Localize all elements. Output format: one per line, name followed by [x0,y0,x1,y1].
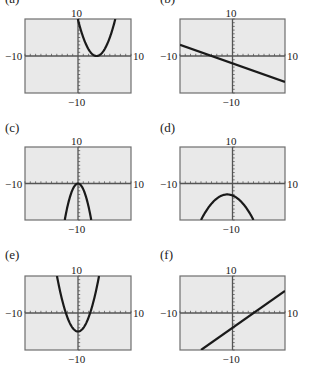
panel-label-c: (c) [5,121,19,135]
xmin-label-f: −10 [160,307,177,319]
ymax-label-a: 10 [71,7,82,19]
ymin-label-b: −10 [223,96,240,108]
panel-label-f: (f) [160,248,173,262]
xmax-label-b: 10 [287,50,298,62]
ymin-label-e: −10 [68,353,85,365]
ymin-label-c: −10 [68,223,85,235]
panel-label-a: (a) [5,0,19,6]
graph-d [180,147,285,220]
xmax-label-a: 10 [133,50,144,62]
ymax-label-e: 10 [71,264,82,276]
xmin-label-a: −10 [5,50,22,62]
ymin-label-f: −10 [223,353,240,365]
xmax-label-f: 10 [287,307,298,319]
graph-f [180,276,285,350]
panel-label-d: (d) [160,121,175,135]
xmax-label-e: 10 [133,307,144,319]
xmax-label-d: 10 [287,178,298,190]
xmin-label-e: −10 [5,307,22,319]
ymax-label-d: 10 [226,135,237,147]
panel-label-e: (e) [5,248,19,262]
ymin-label-d: −10 [223,223,240,235]
xmin-label-b: −10 [160,50,177,62]
xmin-label-c: −10 [5,178,22,190]
ymin-label-a: −10 [68,96,85,108]
ymax-label-f: 10 [226,264,237,276]
graph-a [25,19,131,93]
ymax-label-b: 10 [226,7,237,19]
graph-c [25,147,131,220]
graph-b [180,19,285,93]
xmax-label-c: 10 [133,178,144,190]
ymax-label-c: 10 [71,135,82,147]
panel-label-b: (b) [160,0,175,6]
graph-e [25,276,131,350]
xmin-label-d: −10 [160,178,177,190]
